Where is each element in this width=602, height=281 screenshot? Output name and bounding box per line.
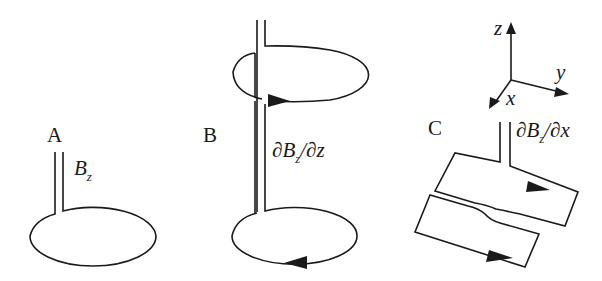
panel-c-quantity: ∂Bz/∂x	[516, 120, 570, 141]
y-axis-arrowhead-icon	[554, 87, 569, 97]
quantity-pre: ∂B	[516, 118, 539, 142]
arrow-icon	[486, 250, 513, 262]
arrow-icon	[284, 256, 307, 269]
arrow-icon	[268, 94, 290, 107]
arrow-icon	[526, 181, 550, 192]
panel-b-label: B	[203, 125, 217, 146]
panel-a-coil	[30, 152, 156, 266]
x-axis-label: x	[506, 88, 515, 109]
quantity-subscript: z	[539, 131, 544, 146]
panel-c-label: C	[428, 118, 442, 139]
panel-c-coil	[415, 122, 578, 267]
quantity-subscript: z	[87, 169, 92, 184]
panel-b-quantity: ∂Bz/∂z	[272, 140, 325, 161]
coordinate-axes	[494, 30, 560, 104]
panel-a-label: A	[47, 125, 62, 146]
panel-a-quantity: Bz	[74, 158, 92, 179]
quantity-pre: ∂B	[272, 138, 295, 162]
quantity-post: /∂x	[544, 118, 570, 142]
quantity-main: B	[74, 156, 87, 180]
quantity-subscript: z	[295, 151, 300, 166]
quantity-post: /∂z	[300, 138, 324, 162]
z-axis-arrowhead-icon	[506, 22, 516, 34]
y-axis-label: y	[556, 62, 565, 83]
z-axis-label: z	[494, 18, 502, 39]
